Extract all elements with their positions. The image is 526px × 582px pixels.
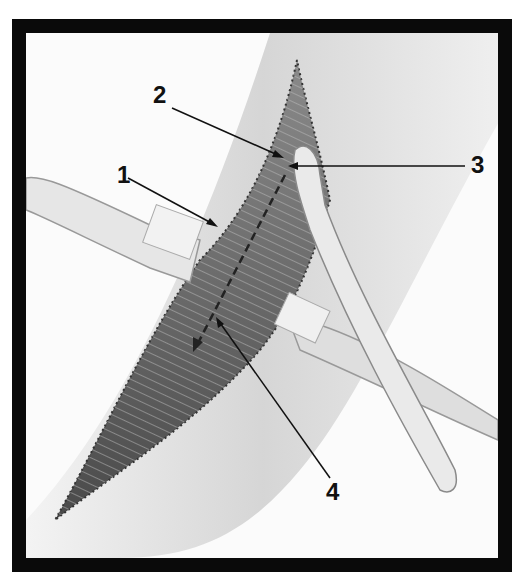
surgical-illustration (0, 0, 526, 582)
label-2: 2 (153, 83, 166, 107)
label-4: 4 (326, 480, 339, 504)
label-1: 1 (117, 163, 130, 187)
label-3: 3 (471, 153, 484, 177)
